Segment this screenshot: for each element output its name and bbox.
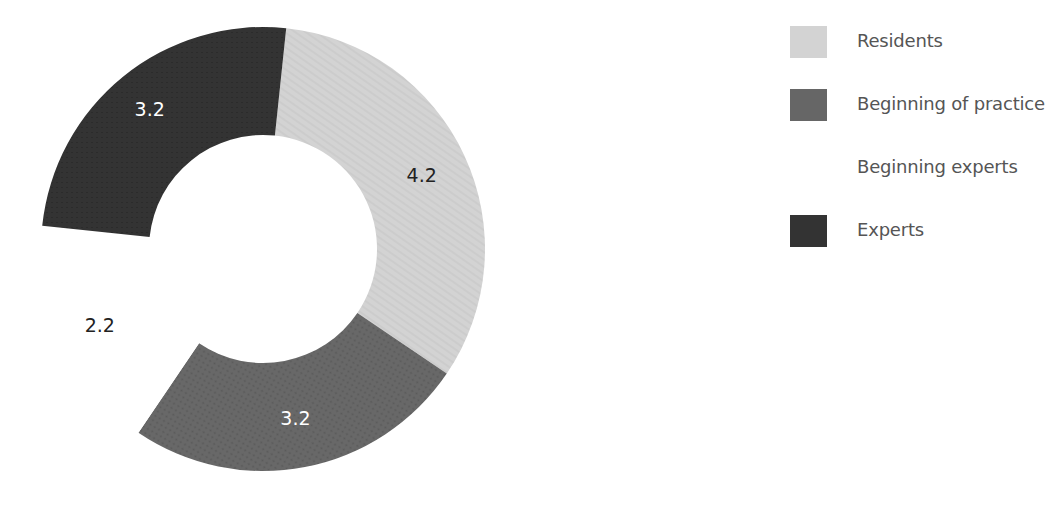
legend-item-experts: Experts [790, 215, 1056, 247]
legend-label-beginning-of-practice: Beginning of practice [857, 93, 1045, 114]
slice-label-beginning-experts: 2.2 [85, 314, 115, 336]
slice-experts [42, 27, 286, 237]
slice-label-beginning-of-practice: 3.2 [280, 407, 310, 429]
legend-swatch-experts [790, 215, 827, 247]
donut-chart: 4.23.22.23.2 [0, 0, 1056, 509]
legend-label-experts: Experts [857, 219, 924, 240]
legend-swatch-beginning-experts [790, 152, 827, 184]
legend-label-beginning-experts: Beginning experts [857, 156, 1018, 177]
legend-item-residents: Residents [790, 26, 1056, 58]
legend-swatch-residents [790, 26, 827, 58]
donut-slices [41, 27, 485, 471]
slice-label-residents: 4.2 [407, 164, 437, 186]
legend-swatch-beginning-of-practice [790, 89, 827, 121]
legend-item-beginning-of-practice: Beginning of practice [790, 89, 1056, 121]
legend-item-beginning-experts: Beginning experts [790, 152, 1056, 184]
slice-residents [275, 28, 485, 373]
slice-label-experts: 3.2 [135, 98, 165, 120]
legend-label-residents: Residents [857, 30, 943, 51]
